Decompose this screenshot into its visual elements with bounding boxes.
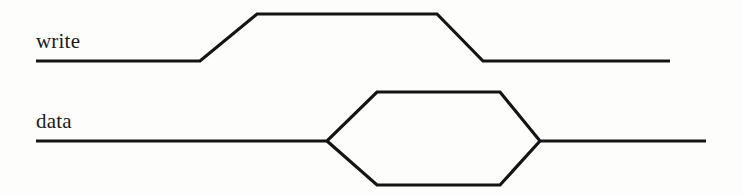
timing-diagram-figure: write data: [0, 0, 742, 195]
waveform-canvas: [0, 0, 742, 195]
data-signal-label: data: [36, 111, 72, 132]
data-signal-upper-envelope: [36, 92, 706, 141]
data-signal-lower-envelope: [327, 141, 540, 185]
write-signal-waveform: [36, 14, 670, 61]
write-signal-label: write: [36, 31, 80, 52]
